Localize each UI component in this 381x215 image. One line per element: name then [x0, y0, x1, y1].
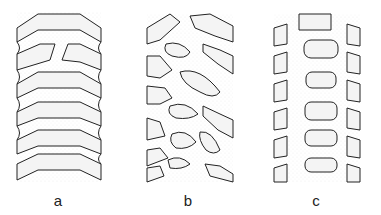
diagram-figure	[0, 0, 381, 215]
panel-c	[274, 14, 360, 182]
panel-label-a: a	[48, 192, 68, 209]
panel-label-b: b	[178, 192, 198, 209]
panel-b	[147, 14, 233, 182]
panel-label-c: c	[306, 192, 326, 209]
panel-a	[17, 12, 101, 182]
